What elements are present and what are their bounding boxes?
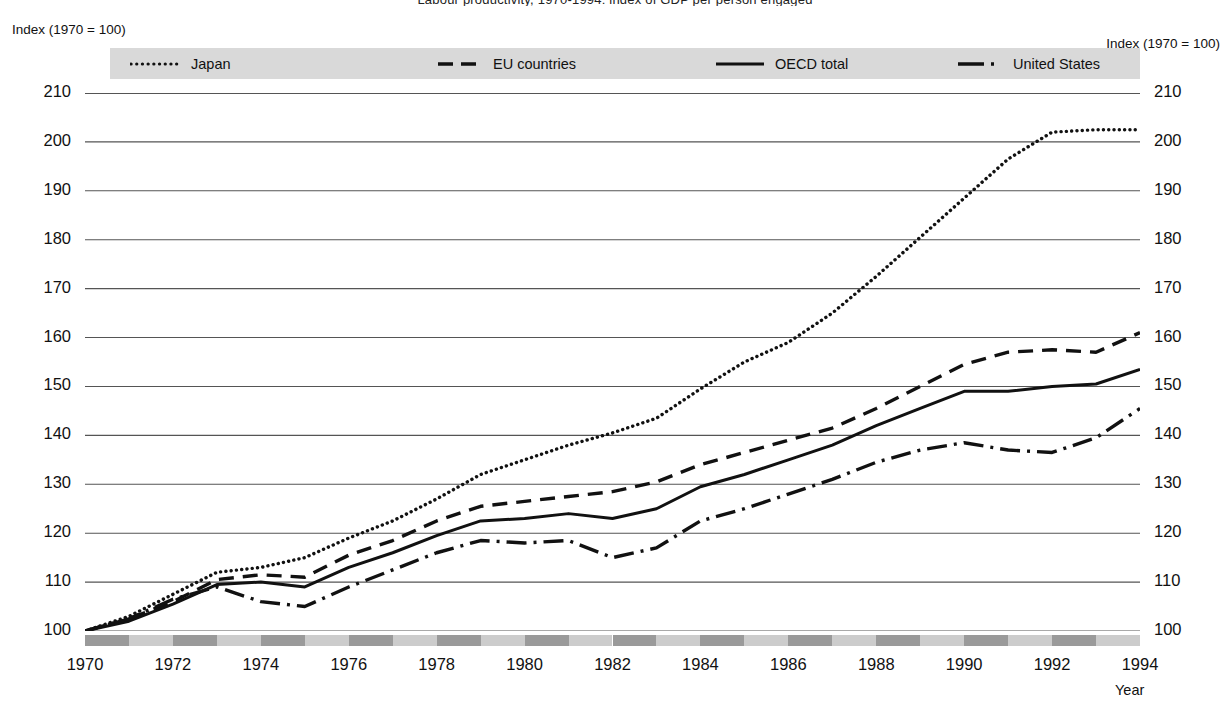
x-tick-label-1984: 1984 [665,655,735,674]
legend-item-united-states[interactable]: United States [952,48,1100,79]
legend-swatch-dotted-icon [130,57,182,71]
y-tick-label-right-200: 200 [1154,131,1210,150]
x-band-segment-1987 [832,635,876,646]
y-tick-label-left-110: 110 [15,571,71,590]
legend-item-oecd-total[interactable]: OECD total [714,48,848,79]
chart-title: Labour productivity, 1970-1994: index of… [0,0,1230,6]
x-band-segment-1989 [920,635,964,646]
x-band-segment-1990 [964,635,1008,646]
x-tick-label-1992: 1992 [1017,655,1087,674]
x-band-segment-1972 [173,635,217,646]
legend-item-eu-countries[interactable]: EU countries [432,48,576,79]
x-band-segment-1985 [744,635,788,646]
x-band-segment-1970 [85,635,129,646]
x-tick-label-1976: 1976 [314,655,384,674]
x-band-segment-1986 [788,635,832,646]
y-tick-label-right-180: 180 [1154,229,1210,248]
x-band-segment-1973 [217,635,261,646]
legend-item-japan[interactable]: Japan [130,48,231,79]
x-band-segment-1981 [569,635,613,646]
x-band-segment-1977 [393,635,437,646]
x-band-segment-1979 [481,635,525,646]
y-tick-label-left-160: 160 [15,327,71,346]
x-band-segment-1993 [1096,635,1140,646]
x-tick-label-1988: 1988 [841,655,911,674]
y-tick-label-left-100: 100 [15,620,71,639]
y-tick-label-right-210: 210 [1154,82,1210,101]
chart-page: Labour productivity, 1970-1994: index of… [0,0,1230,715]
y-tick-label-right-190: 190 [1154,180,1210,199]
x-tick-label-1982: 1982 [578,655,648,674]
x-tick-label-1972: 1972 [138,655,208,674]
x-tick-label-1970: 1970 [50,655,120,674]
x-band-segment-1980 [525,635,569,646]
x-band-segment-1978 [437,635,481,646]
x-band-segment-1991 [1008,635,1052,646]
y-tick-label-left-190: 190 [15,180,71,199]
x-tick-label-1990: 1990 [929,655,999,674]
y-tick-label-right-120: 120 [1154,522,1210,541]
y-tick-label-left-150: 150 [15,375,71,394]
legend-label-japan: Japan [191,56,231,72]
x-axis-band [85,635,1140,646]
y-tick-label-left-120: 120 [15,522,71,541]
x-tick-label-1974: 1974 [226,655,296,674]
x-band-segment-1992 [1052,635,1096,646]
series-line-eu-countries [85,333,1140,631]
x-band-segment-1976 [349,635,393,646]
legend-label-oecd-total: OECD total [775,56,848,72]
y-tick-label-right-110: 110 [1154,571,1210,590]
x-tick-label-1986: 1986 [753,655,823,674]
series-line-japan [85,130,1140,631]
legend-label-united-states: United States [1013,56,1100,72]
x-band-segment-1971 [129,635,173,646]
y-tick-label-left-130: 130 [15,473,71,492]
legend-label-eu-countries: EU countries [493,56,576,72]
x-band-segment-1975 [305,635,349,646]
plot-area [85,93,1140,631]
x-band-segment-1988 [876,635,920,646]
y-tick-label-left-140: 140 [15,424,71,443]
y-tick-label-right-130: 130 [1154,473,1210,492]
chart-canvas [85,93,1140,631]
x-tick-label-1994: 1994 [1105,655,1175,674]
x-band-segment-1983 [656,635,700,646]
y-tick-label-left-170: 170 [15,278,71,297]
legend-swatch-dash-dot-icon [952,57,1004,71]
y-tick-label-right-100: 100 [1154,620,1210,639]
x-tick-label-1978: 1978 [402,655,472,674]
series-line-oecd-total [85,369,1140,631]
y-tick-label-right-140: 140 [1154,424,1210,443]
y-tick-label-right-160: 160 [1154,327,1210,346]
x-tick-label-1980: 1980 [490,655,560,674]
y-tick-label-right-170: 170 [1154,278,1210,297]
x-axis-caption: Year [1115,682,1144,698]
x-band-segment-1982 [613,635,657,646]
y-tick-label-left-210: 210 [15,82,71,101]
legend-swatch-solid-icon [714,57,766,71]
x-band-segment-1974 [261,635,305,646]
x-band-segment-1984 [700,635,744,646]
y-tick-label-left-200: 200 [15,131,71,150]
y-axis-caption-left: Index (1970 = 100) [12,22,126,37]
y-tick-label-right-150: 150 [1154,375,1210,394]
legend-swatch-dashed-icon [432,57,484,71]
y-tick-label-left-180: 180 [15,229,71,248]
